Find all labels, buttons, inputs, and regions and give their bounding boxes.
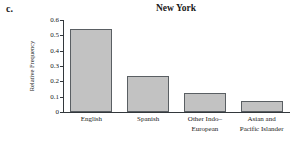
- x-axis-line: [63, 112, 290, 113]
- bar: [127, 76, 169, 112]
- x-tick-label: Other Indo–European: [177, 115, 234, 134]
- x-tick-label-line: Pacific Islander: [233, 125, 290, 135]
- x-tick-label: English: [63, 115, 120, 125]
- x-tick-label-line: European: [177, 125, 234, 135]
- x-tick-label-line: English: [63, 115, 120, 125]
- x-tick-label-line: Asian and: [233, 115, 290, 125]
- y-tick-label: 0.3: [50, 63, 59, 70]
- y-tick-mark: [60, 81, 63, 82]
- y-axis-line: [63, 20, 64, 112]
- x-tick-label-line: Other Indo–: [177, 115, 234, 125]
- y-tick-mark: [60, 35, 63, 36]
- y-tick-mark: [60, 66, 63, 67]
- bar: [241, 101, 283, 113]
- x-tick-label-line: Spanish: [120, 115, 177, 125]
- bar: [70, 29, 112, 112]
- y-tick-mark: [60, 20, 63, 21]
- y-tick-label: 0: [56, 109, 60, 116]
- y-tick-mark: [60, 97, 63, 98]
- plot-area: 00.10.20.30.40.50.6 EnglishSpanishOther …: [63, 20, 290, 112]
- figure-panel: c. New York Relative Frequency 00.10.20.…: [0, 0, 300, 150]
- y-tick-label: 0.6: [50, 17, 59, 24]
- y-tick-label: 0.4: [50, 47, 59, 54]
- x-tick-label: Spanish: [120, 115, 177, 125]
- bar: [184, 93, 226, 112]
- x-tick-label: Asian andPacific Islander: [233, 115, 290, 134]
- y-tick-mark: [60, 112, 63, 113]
- y-tick-mark: [60, 51, 63, 52]
- y-tick-label: 0.5: [50, 32, 59, 39]
- panel-letter: c.: [6, 4, 13, 14]
- y-tick-label: 0.2: [50, 78, 59, 85]
- y-tick-label: 0.1: [50, 93, 59, 100]
- y-axis-label: Relative Frequency: [26, 20, 37, 112]
- chart-title: New York: [62, 3, 290, 13]
